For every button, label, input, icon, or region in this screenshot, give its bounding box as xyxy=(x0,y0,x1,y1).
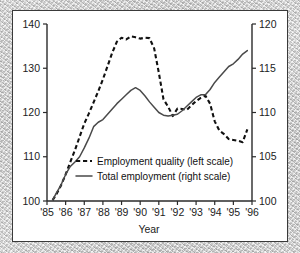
chart-panel: 100110120130140 100105110115120 '85'86'8… xyxy=(12,10,288,242)
chart-legend: Employment quality (left scale) Total em… xyxy=(76,156,233,182)
left-tick-label: 120 xyxy=(22,106,40,118)
left-tick-label: 130 xyxy=(22,62,40,74)
x-tick-label: '86 xyxy=(59,206,73,218)
right-tick-label: 115 xyxy=(259,62,276,74)
x-tick-label: '88 xyxy=(96,206,110,218)
x-tick-label: '96 xyxy=(245,206,259,218)
right-axis-ticks: 100105110115120 xyxy=(252,18,277,207)
x-tick-label: '94 xyxy=(208,206,222,218)
x-tick-label: '90 xyxy=(133,206,147,218)
left-tick-label: 100 xyxy=(22,195,40,207)
x-tick-label: '87 xyxy=(77,206,91,218)
employment-chart: 100110120130140 100105110115120 '85'86'8… xyxy=(13,11,286,240)
right-tick-label: 100 xyxy=(259,195,277,207)
x-axis-title: Year xyxy=(138,223,160,235)
legend-label-employment-quality: Employment quality (left scale) xyxy=(97,156,233,167)
x-tick-label: '92 xyxy=(171,206,185,218)
left-tick-label: 110 xyxy=(23,150,40,162)
right-tick-label: 105 xyxy=(259,150,277,162)
x-axis-ticks: '85'86'87'88'89'90'91'92'93'94'95'96 xyxy=(40,201,259,218)
left-tick-label: 140 xyxy=(22,18,40,30)
screenshot-root: 100110120130140 100105110115120 '85'86'8… xyxy=(0,0,300,253)
x-tick-label: '91 xyxy=(152,206,166,218)
x-tick-label: '85 xyxy=(40,206,54,218)
x-tick-label: '93 xyxy=(189,206,203,218)
right-tick-label: 110 xyxy=(259,106,276,118)
x-tick-label: '95 xyxy=(227,206,241,218)
x-tick-label: '89 xyxy=(115,206,129,218)
legend-label-total-employment: Total employment (right scale) xyxy=(97,171,230,182)
right-tick-label: 120 xyxy=(259,18,277,30)
left-axis-ticks: 100110120130140 xyxy=(22,18,47,207)
